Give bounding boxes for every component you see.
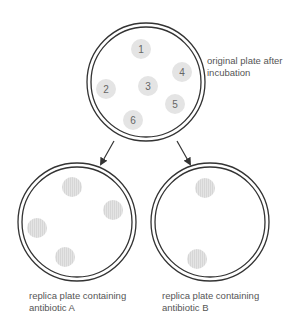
- label-line: replica plate containing: [29, 290, 126, 302]
- colony: [103, 200, 123, 220]
- label-line: antibiotic B: [162, 302, 259, 314]
- colony-icon: [103, 200, 123, 220]
- colony: 3: [138, 76, 158, 96]
- colony-number: 5: [172, 99, 178, 110]
- label-line: incubation: [207, 67, 283, 79]
- colony: [195, 178, 215, 198]
- colony: 2: [96, 79, 116, 99]
- colony-number: 1: [138, 44, 144, 55]
- replica-plate-a: [18, 163, 136, 281]
- replica-plate-b-label: replica plate containing antibiotic B: [162, 290, 259, 313]
- label-line: replica plate containing: [162, 290, 259, 302]
- arrow-icon: [177, 141, 190, 164]
- colony: 1: [131, 39, 151, 59]
- label-line: original plate after: [207, 55, 283, 67]
- replica-plate-a-label: replica plate containing antibiotic A: [29, 290, 126, 313]
- colony: 5: [165, 94, 185, 114]
- colony-icon: [187, 249, 207, 269]
- colony: [187, 249, 207, 269]
- colony-icon: [55, 247, 75, 267]
- colony: [55, 247, 75, 267]
- colony-icon: [27, 218, 47, 238]
- colony: 4: [172, 62, 192, 82]
- original-plate: 123456: [87, 23, 205, 141]
- replica-plate-b: [151, 163, 269, 281]
- label-line: antibiotic A: [29, 302, 126, 314]
- colony: [27, 218, 47, 238]
- colony-icon: [62, 177, 82, 197]
- arrow-icon: [101, 141, 114, 164]
- colony-number: 3: [145, 81, 151, 92]
- arrows: [101, 141, 190, 164]
- colony-icon: [195, 178, 215, 198]
- colony: [62, 177, 82, 197]
- colony: 6: [123, 110, 143, 130]
- colony-number: 6: [130, 115, 136, 126]
- original-plate-label: original plate after incubation: [207, 55, 283, 78]
- colony-number: 4: [179, 67, 185, 78]
- colony-number: 2: [103, 84, 109, 95]
- replica-plating-diagram: 123456: [0, 0, 298, 327]
